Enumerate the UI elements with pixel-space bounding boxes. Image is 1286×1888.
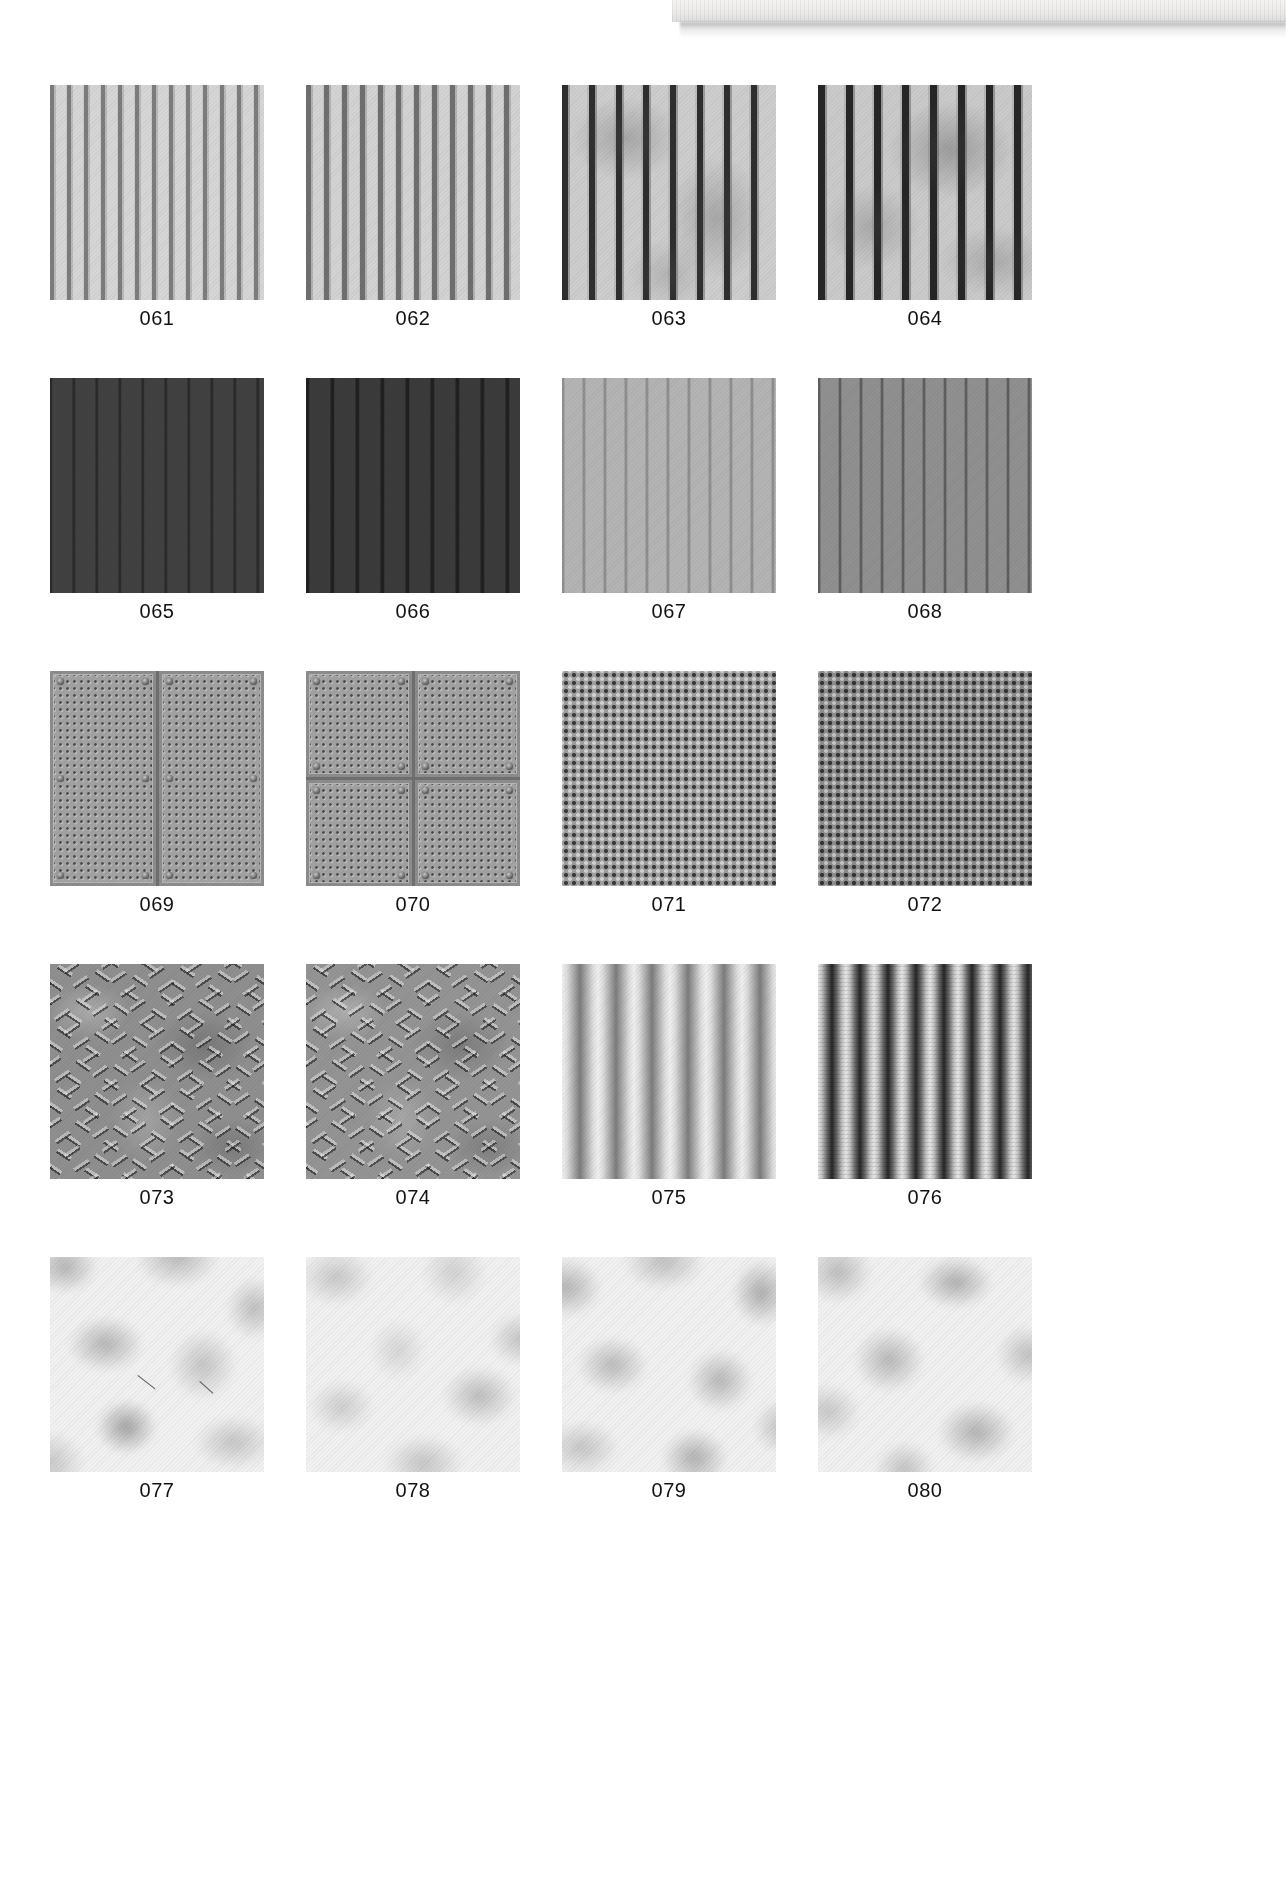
texture-cell-062[interactable]: 062: [306, 85, 520, 378]
texture-cell-073[interactable]: 073: [50, 964, 264, 1257]
texture-cell-070[interactable]: 070: [306, 671, 520, 964]
texture-swatch-074[interactable]: [306, 964, 520, 1179]
texture-caption-062: 062: [306, 307, 520, 330]
texture-cell-074[interactable]: 074: [306, 964, 520, 1257]
texture-swatch-068[interactable]: [818, 378, 1032, 593]
texture-caption-061: 061: [50, 307, 264, 330]
texture-caption-068: 068: [818, 600, 1032, 623]
texture-cell-066[interactable]: 066: [306, 378, 520, 671]
texture-row-3: 069: [0, 671, 1286, 964]
texture-swatch-066[interactable]: [306, 378, 520, 593]
cloud-noise-078: [306, 1257, 520, 1472]
plate-panel: [415, 780, 521, 886]
cloud-noise-077: [50, 1257, 264, 1472]
texture-caption-069: 069: [50, 893, 264, 916]
texture-cell-080[interactable]: 080: [818, 1257, 1032, 1550]
texture-row-1: 061 062 063 064: [0, 85, 1286, 378]
diamond-plate-074: [306, 964, 520, 1179]
texture-cell-077[interactable]: 077: [50, 1257, 264, 1550]
texture-swatch-079[interactable]: [562, 1257, 776, 1472]
perforated-plate-069: [50, 671, 264, 886]
plate-panel: [50, 671, 156, 886]
plate-panel: [306, 780, 412, 886]
texture-caption-074: 074: [306, 1186, 520, 1209]
texture-cell-079[interactable]: 079: [562, 1257, 776, 1550]
texture-swatch-070[interactable]: [306, 671, 520, 886]
cloud-noise-079: [562, 1257, 776, 1472]
texture-caption-080: 080: [818, 1479, 1032, 1502]
texture-cell-061[interactable]: 061: [50, 85, 264, 378]
texture-caption-079: 079: [562, 1479, 776, 1502]
texture-caption-076: 076: [818, 1186, 1032, 1209]
texture-cell-065[interactable]: 065: [50, 378, 264, 671]
plate-panel: [415, 671, 521, 777]
texture-swatch-064[interactable]: [818, 85, 1032, 300]
texture-row-2: 065 066 067 068: [0, 378, 1286, 671]
texture-swatch-062[interactable]: [306, 85, 520, 300]
texture-caption-063: 063: [562, 307, 776, 330]
texture-cell-071[interactable]: 071: [562, 671, 776, 964]
texture-swatch-069[interactable]: [50, 671, 264, 886]
texture-caption-073: 073: [50, 1186, 264, 1209]
diamond-plate-073: [50, 964, 264, 1179]
texture-caption-070: 070: [306, 893, 520, 916]
texture-swatch-078[interactable]: [306, 1257, 520, 1472]
texture-swatch-080[interactable]: [818, 1257, 1032, 1472]
texture-caption-071: 071: [562, 893, 776, 916]
texture-row-4: 073 074 075 076: [0, 964, 1286, 1257]
texture-caption-078: 078: [306, 1479, 520, 1502]
plate-panel: [159, 671, 265, 886]
texture-swatch-071[interactable]: [562, 671, 776, 886]
texture-cell-064[interactable]: 064: [818, 85, 1032, 378]
texture-caption-075: 075: [562, 1186, 776, 1209]
perforated-plate-070: [306, 671, 520, 886]
texture-cell-069[interactable]: 069: [50, 671, 264, 964]
cloud-noise-080: [818, 1257, 1032, 1472]
texture-caption-064: 064: [818, 307, 1032, 330]
texture-caption-065: 065: [50, 600, 264, 623]
texture-cell-075[interactable]: 075: [562, 964, 776, 1257]
texture-cell-068[interactable]: 068: [818, 378, 1032, 671]
texture-swatch-061[interactable]: [50, 85, 264, 300]
texture-swatch-077[interactable]: [50, 1257, 264, 1472]
texture-swatch-072[interactable]: [818, 671, 1032, 886]
texture-row-5: 077 078 079 080: [0, 1257, 1286, 1550]
texture-swatch-063[interactable]: [562, 85, 776, 300]
texture-swatch-067[interactable]: [562, 378, 776, 593]
texture-cell-072[interactable]: 072: [818, 671, 1032, 964]
texture-caption-077: 077: [50, 1479, 264, 1502]
texture-swatch-076[interactable]: [818, 964, 1032, 1179]
texture-caption-067: 067: [562, 600, 776, 623]
texture-cell-063[interactable]: 063: [562, 85, 776, 378]
plate-panel: [306, 671, 412, 777]
texture-swatch-075[interactable]: [562, 964, 776, 1179]
texture-caption-066: 066: [306, 600, 520, 623]
texture-swatch-065[interactable]: [50, 378, 264, 593]
texture-swatch-073[interactable]: [50, 964, 264, 1179]
texture-cell-078[interactable]: 078: [306, 1257, 520, 1550]
texture-cell-067[interactable]: 067: [562, 378, 776, 671]
texture-sheet: 061 062 063 064 065 066 067: [0, 0, 1286, 1888]
texture-caption-072: 072: [818, 893, 1032, 916]
texture-cell-076[interactable]: 076: [818, 964, 1032, 1257]
